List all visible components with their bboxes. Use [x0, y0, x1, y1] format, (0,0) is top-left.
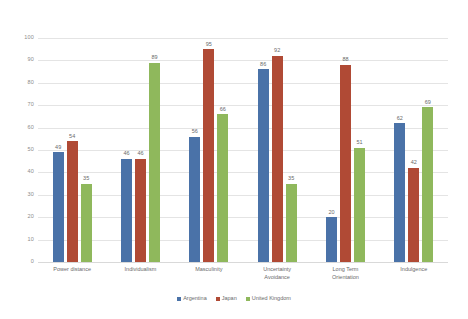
chart-legend: ArgentinaJapanUnited Kingdom [0, 296, 468, 302]
bar[interactable] [121, 159, 132, 262]
bar[interactable] [326, 217, 337, 262]
legend-swatch-icon [177, 297, 181, 301]
bar[interactable] [422, 107, 433, 262]
x-axis-tick-label: Long Term Orientation [311, 266, 379, 290]
bar[interactable] [272, 56, 283, 262]
bar-slot: 35 [81, 38, 92, 262]
bar-slot: 46 [135, 38, 146, 262]
legend-item[interactable]: Japan [216, 296, 237, 302]
bar[interactable] [189, 137, 200, 262]
y-axis-tick-label: 90 [10, 57, 34, 63]
y-axis-tick-label: 80 [10, 80, 34, 86]
bar-value-label: 86 [260, 62, 266, 68]
bar-slot: 51 [354, 38, 365, 262]
bar[interactable] [258, 69, 269, 262]
bar[interactable] [394, 123, 405, 262]
bar-value-label: 51 [356, 140, 362, 146]
bar-slot: 89 [149, 38, 160, 262]
x-axis-tick-label: Masculinity [175, 266, 243, 290]
bar[interactable] [135, 159, 146, 262]
bar-slot: 20 [326, 38, 337, 262]
bar[interactable] [81, 184, 92, 262]
bar-slot: 86 [258, 38, 269, 262]
legend-swatch-icon [246, 297, 250, 301]
bar[interactable] [149, 63, 160, 262]
bar-value-label: 49 [55, 145, 61, 151]
bar-group: 464689 [106, 38, 174, 262]
bar[interactable] [354, 148, 365, 262]
bar[interactable] [217, 114, 228, 262]
legend-item[interactable]: United Kingdom [246, 296, 291, 302]
x-axis-tick-label: Indulgence [380, 266, 448, 290]
bar-slot: 62 [394, 38, 405, 262]
bar-group: 869235 [243, 38, 311, 262]
bar-slot: 42 [408, 38, 419, 262]
x-axis-tick-label: Individualism [106, 266, 174, 290]
bar-value-label: 62 [397, 116, 403, 122]
bar-value-label: 92 [274, 48, 280, 54]
bar-value-label: 54 [69, 134, 75, 140]
bar-slot: 56 [189, 38, 200, 262]
bar-group: 624269 [380, 38, 448, 262]
y-axis-tick-label: 100 [10, 35, 34, 41]
bar-slot: 54 [67, 38, 78, 262]
bar-slot: 69 [422, 38, 433, 262]
bar-value-label: 95 [206, 42, 212, 48]
y-axis-tick-label: 40 [10, 169, 34, 175]
bar-slot: 95 [203, 38, 214, 262]
y-axis: 0102030405060708090100 [6, 38, 34, 262]
legend-label: United Kingdom [252, 296, 291, 302]
x-axis: Power distanceIndividualismMasculinityUn… [38, 266, 448, 290]
bar[interactable] [53, 152, 64, 262]
bar-value-label: 35 [83, 176, 89, 182]
y-axis-tick-label: 50 [10, 147, 34, 153]
bar-value-label: 42 [411, 160, 417, 166]
legend-label: Japan [222, 296, 237, 302]
bar-value-label: 66 [220, 107, 226, 113]
bar[interactable] [203, 49, 214, 262]
bar[interactable] [408, 168, 419, 262]
bar-group: 208851 [311, 38, 379, 262]
y-axis-tick-label: 20 [10, 214, 34, 220]
legend-swatch-icon [216, 297, 220, 301]
y-axis-tick-label: 0 [10, 259, 34, 265]
bar-value-label: 46 [137, 151, 143, 157]
bar-slot: 46 [121, 38, 132, 262]
gridline [38, 262, 448, 263]
bar-value-label: 46 [123, 151, 129, 157]
bar-group: 495435 [38, 38, 106, 262]
bar-slot: 35 [286, 38, 297, 262]
x-axis-tick-label: Uncertainty Avoidance [243, 266, 311, 290]
y-axis-tick-label: 10 [10, 237, 34, 243]
bar-slot: 66 [217, 38, 228, 262]
y-axis-tick-label: 30 [10, 192, 34, 198]
bar-value-label: 89 [151, 55, 157, 61]
y-axis-tick-label: 70 [10, 102, 34, 108]
bar-slot: 49 [53, 38, 64, 262]
bar-value-label: 56 [192, 129, 198, 135]
bar[interactable] [286, 184, 297, 262]
bar-value-label: 20 [328, 210, 334, 216]
bar-slot: 88 [340, 38, 351, 262]
x-axis-tick-label: Power distance [38, 266, 106, 290]
legend-item[interactable]: Argentina [177, 296, 207, 302]
bar[interactable] [67, 141, 78, 262]
bar-groups: 495435464689569566869235208851624269 [38, 38, 448, 262]
bar-value-label: 69 [425, 100, 431, 106]
bar-value-label: 88 [342, 57, 348, 63]
legend-label: Argentina [183, 296, 207, 302]
bar-slot: 92 [272, 38, 283, 262]
bar-value-label: 35 [288, 176, 294, 182]
bar[interactable] [340, 65, 351, 262]
bar-chart: 0102030405060708090100 49543546468956956… [0, 0, 468, 319]
y-axis-tick-label: 60 [10, 125, 34, 131]
bar-group: 569566 [175, 38, 243, 262]
